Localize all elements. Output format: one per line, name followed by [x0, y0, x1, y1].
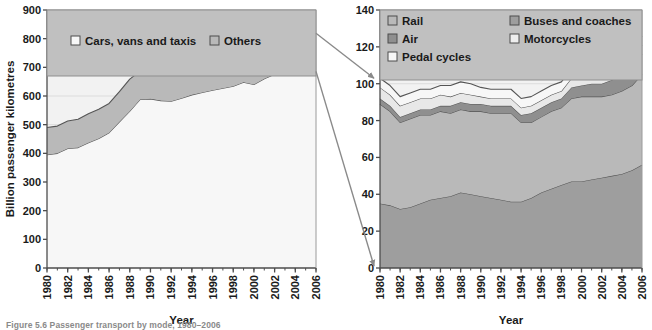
x-tick-label: 1986 [103, 275, 115, 299]
x-tick-label-group: 2004 [616, 274, 628, 299]
legend-label: Rail [402, 15, 423, 27]
y-axis-title-group: Billion passenger kilometres [4, 61, 16, 218]
y-tick-label: 0 [35, 262, 41, 274]
x-tick-label: 1998 [555, 275, 567, 299]
x-tick-label-group: 1998 [227, 275, 239, 299]
x-tick-label: 1990 [144, 275, 156, 299]
legend-label: Air [402, 33, 419, 45]
x-tick-label: 1992 [495, 275, 507, 299]
x-tick-label: 2002 [596, 275, 608, 299]
x-tick-label: 1982 [394, 275, 406, 299]
legend-swatch [510, 16, 519, 25]
x-axis-title: Year [499, 314, 524, 326]
x-tick-label-group: 1986 [103, 275, 115, 299]
x-tick-label: 2006 [636, 275, 648, 299]
y-tick-label: 140 [356, 4, 374, 16]
x-tick-label: 2004 [616, 274, 628, 299]
legend-label: Others [224, 35, 261, 47]
y-axis-title: Billion passenger kilometres [4, 61, 16, 218]
left-chart-panel: 0100200300400500600700800900198019821984… [0, 0, 340, 329]
x-tick-label-group: 2006 [310, 275, 322, 299]
legend-swatch [71, 36, 80, 45]
x-tick-label: 1996 [207, 275, 219, 299]
legend-label: Motorcycles [524, 33, 591, 45]
x-tick-label: 1998 [227, 275, 239, 299]
x-tick-label-group: 1986 [434, 275, 446, 299]
y-tick-label: 400 [23, 147, 41, 159]
x-tick-label: 1992 [165, 275, 177, 299]
right-chart-svg: 0204060801001201401980198219841986198819… [340, 0, 652, 329]
x-tick-label-group: 2002 [596, 275, 608, 299]
x-tick-label: 1996 [535, 275, 547, 299]
x-tick-label-group: 1996 [207, 275, 219, 299]
legend-item[interactable]: Air [388, 33, 419, 45]
x-tick-label-group: 1992 [495, 275, 507, 299]
x-tick-label-group: 2002 [269, 275, 281, 299]
y-tick-label: 120 [356, 41, 374, 53]
x-tick-label-group: 1980 [41, 275, 53, 299]
x-tick-label: 1994 [515, 274, 527, 299]
y-tick-label: 700 [23, 61, 41, 73]
y-tick-label: 40 [362, 188, 374, 200]
left-chart-svg: 0100200300400500600700800900198019821984… [0, 0, 340, 329]
legend-item[interactable]: Buses and coaches [510, 15, 631, 27]
y-tick-label: 60 [362, 151, 374, 163]
x-tick-label-group: 1990 [144, 275, 156, 299]
y-tick-label: 100 [23, 233, 41, 245]
x-tick-label: 1986 [434, 275, 446, 299]
x-tick-label-group: 2004 [289, 274, 301, 299]
x-tick-label-group: 1984 [82, 274, 94, 299]
legend-label: Pedal cycles [402, 51, 471, 63]
legend-item[interactable]: Cars, vans and taxis [71, 35, 196, 47]
x-tick-label-group: 2000 [576, 275, 588, 299]
x-tick-label-group: 1994 [186, 274, 198, 299]
x-tick-label-group: 1992 [165, 275, 177, 299]
y-tick-label: 500 [23, 119, 41, 131]
x-tick-label-group: 1982 [62, 275, 74, 299]
x-tick-label: 1988 [124, 275, 136, 299]
y-tick-label: 300 [23, 176, 41, 188]
y-tick-label: 80 [362, 115, 374, 127]
x-tick-label: 1980 [41, 275, 53, 299]
legend-item[interactable]: Others [210, 35, 261, 47]
y-tick-label: 0 [368, 262, 374, 274]
y-tick-label: 100 [356, 78, 374, 90]
legend-swatch [510, 34, 519, 43]
y-tick-label: 600 [23, 90, 41, 102]
right-chart-panel: 0204060801001201401980198219841986198819… [340, 0, 652, 329]
legend-swatch [388, 34, 397, 43]
y-tick-label: 200 [23, 205, 41, 217]
x-tick-label-group: 2006 [636, 275, 648, 299]
x-tick-label-group: 1988 [124, 275, 136, 299]
y-tick-label: 800 [23, 33, 41, 45]
x-tick-label: 1994 [186, 274, 198, 299]
x-tick-label-group: 1980 [374, 275, 386, 299]
y-tick-label: 20 [362, 225, 374, 237]
x-tick-label: 1990 [475, 275, 487, 299]
legend-label: Buses and coaches [524, 15, 631, 27]
x-tick-label-group: 1996 [535, 275, 547, 299]
x-tick-label-group: 1984 [414, 274, 426, 299]
x-tick-label: 1984 [82, 274, 94, 299]
legend-swatch [388, 16, 397, 25]
x-tick-label-group: 1982 [394, 275, 406, 299]
x-tick-label: 2000 [248, 275, 260, 299]
legend-item[interactable]: Rail [388, 15, 423, 27]
x-tick-label-group: 2000 [248, 275, 260, 299]
x-tick-label-group: 1994 [515, 274, 527, 299]
x-tick-label: 1980 [374, 275, 386, 299]
legend-swatch [388, 52, 397, 61]
x-tick-label: 2002 [269, 275, 281, 299]
legend-label: Cars, vans and taxis [85, 35, 196, 47]
figure-caption: Figure 5.6 Passenger transport by mode, … [6, 320, 221, 330]
x-tick-label: 2000 [576, 275, 588, 299]
x-tick-label: 2006 [310, 275, 322, 299]
x-tick-label-group: 1990 [475, 275, 487, 299]
y-tick-label: 900 [23, 4, 41, 16]
x-tick-label: 1982 [62, 275, 74, 299]
x-tick-label: 1984 [414, 274, 426, 299]
x-tick-label-group: 1998 [555, 275, 567, 299]
x-tick-label-group: 1988 [455, 275, 467, 299]
x-tick-label: 2004 [289, 274, 301, 299]
x-tick-label: 1988 [455, 275, 467, 299]
